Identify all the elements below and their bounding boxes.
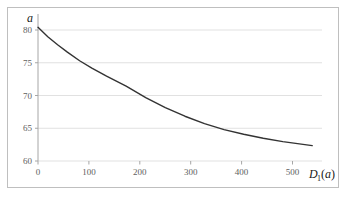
x-tick-label: 400: [235, 167, 249, 177]
y-tick-label: 60: [23, 156, 33, 166]
x-tick-label: 100: [82, 167, 96, 177]
y-tick-label: 65: [23, 123, 33, 133]
x-tick-label: 300: [184, 167, 198, 177]
x-tick-label: 200: [133, 167, 147, 177]
y-tick-label: 70: [23, 91, 33, 101]
x-axis-title-close-paren: ): [331, 167, 335, 181]
y-tick-label: 75: [23, 58, 33, 68]
x-axis-ticks: [38, 161, 293, 165]
y-tick-labels: 80 75 70 65 60: [23, 25, 33, 166]
y-tick-label: 80: [23, 25, 33, 35]
x-axis-title: D 1 ( a ): [308, 167, 335, 183]
y-axis-title: a: [27, 11, 33, 25]
x-tick-labels: 0 100 200 300 400 500: [36, 167, 300, 177]
x-tick-label: 0: [36, 167, 41, 177]
x-tick-label: 500: [286, 167, 300, 177]
chart-figure: 80 75 70 65 60 0 100 200 300 400 500 a D…: [0, 0, 346, 197]
chart-plot-area: 80 75 70 65 60 0 100 200 300 400 500 a D…: [0, 0, 346, 197]
